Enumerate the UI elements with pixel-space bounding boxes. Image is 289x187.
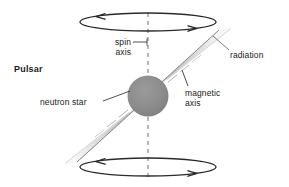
radiation-label: radiation <box>230 50 264 60</box>
spin-axis-label-line2: axis <box>115 47 131 57</box>
magnetic-axis-label: magneticaxis <box>185 88 220 108</box>
magnetic-axis-leader-line <box>182 70 188 86</box>
radiation-beam-lower-left <box>64 106 138 165</box>
neutron-star-leader-line <box>103 91 130 101</box>
pulsar-title-label: Pulsar <box>14 64 43 74</box>
spin-axis-leader-line <box>133 39 147 46</box>
rotation-arrowhead-bottom-left <box>96 159 105 165</box>
pulsar-diagram-graphic <box>0 0 289 187</box>
magnetic-axis-label-line1: magnetic <box>185 88 220 98</box>
magnetic-axis-label-line2: axis <box>185 98 201 108</box>
radiation-beam-upper-right <box>158 27 232 86</box>
neutron-star-sphere <box>128 76 169 117</box>
neutron-star-label: neutron star <box>40 97 87 107</box>
spin-axis-label: spinaxis <box>97 37 131 57</box>
rotation-arrowhead-top-left <box>96 14 105 20</box>
pulsar-diagram: Pulsar spinaxis radiation magneticaxis n… <box>0 0 289 187</box>
spin-axis-label-line1: spin <box>115 37 131 47</box>
radiation-leader-line <box>213 36 229 50</box>
